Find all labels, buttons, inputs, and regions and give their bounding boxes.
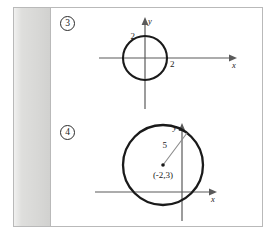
figure-4-graph: x y 5 (-2,3) xyxy=(85,118,255,223)
figure-3: 3 x y 2 2 xyxy=(55,14,255,114)
center-point-dot xyxy=(161,163,165,167)
page-margin-band xyxy=(14,8,51,226)
radius-length-label: 5 xyxy=(163,140,168,150)
y-tick-label-2: 2 xyxy=(131,31,136,41)
figure-3-graph: x y 2 2 xyxy=(97,14,247,114)
y-axis-group: y xyxy=(142,16,152,109)
x-tick-label-2: 2 xyxy=(170,59,175,69)
x-axis-label: x xyxy=(210,194,215,204)
scanned-textbook-page: 3 x y 2 2 xyxy=(0,0,274,235)
figure-3-number: 3 xyxy=(60,16,75,31)
figure-4-number: 4 xyxy=(60,125,75,140)
x-axis-group: x xyxy=(95,189,217,204)
center-coordinates-label: (-2,3) xyxy=(153,170,173,180)
y-axis-label: y xyxy=(147,16,152,26)
figure-4: 4 x y xyxy=(55,118,255,223)
x-axis-label: x xyxy=(231,60,236,70)
y-axis-group: y xyxy=(172,122,185,221)
